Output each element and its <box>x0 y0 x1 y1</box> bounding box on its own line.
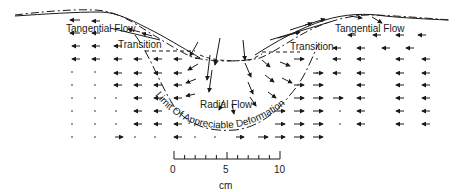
deformation-flow-diagram: Tangential Flow Transition Tangential Fl… <box>0 0 458 192</box>
scale-tick-10: 10 <box>274 164 286 175</box>
label-tangential-flow-left: Tangential Flow <box>66 23 136 34</box>
surface-profile <box>15 10 450 61</box>
label-transition-right: Transition <box>290 41 334 52</box>
scale-tick-0: 0 <box>170 164 176 175</box>
label-transition-left: Transition <box>118 39 162 50</box>
far-right-flow-arrows <box>333 35 430 124</box>
scale-tick-5: 5 <box>223 164 229 175</box>
scale-unit-label: cm <box>219 180 232 191</box>
transition-boundaries <box>145 51 300 61</box>
label-radial-flow: Radial Flow <box>200 99 253 110</box>
label-tangential-flow-right: Tangential Flow <box>335 23 405 34</box>
scale-bar <box>174 151 280 159</box>
